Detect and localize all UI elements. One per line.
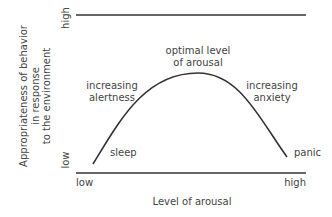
peak-label-line1: optimal level	[166, 45, 231, 56]
x-axis-title: Level of arousal	[153, 196, 232, 207]
right-label-line1: increasing	[246, 80, 297, 91]
panic-label: panic	[294, 147, 321, 158]
y-axis-low-label: low	[60, 151, 71, 168]
y-axis-title-line1: Appropriateness of behavior	[18, 24, 29, 167]
x-axis-low-label: low	[76, 177, 93, 188]
peak-label-line2: of arousal	[173, 57, 222, 68]
left-label-line2: alertness	[89, 92, 135, 103]
x-axis-high-label: high	[284, 177, 306, 188]
y-axis-high-label: high	[60, 7, 71, 29]
arousal-performance-diagram: high low Appropriateness of behavior in …	[0, 0, 332, 217]
left-label-line1: increasing	[86, 80, 137, 91]
y-axis-title-line2: in response	[30, 67, 41, 125]
sleep-label: sleep	[110, 147, 137, 158]
right-label-line2: anxiety	[253, 92, 290, 103]
y-axis-title-line3: to the environment	[41, 48, 52, 145]
